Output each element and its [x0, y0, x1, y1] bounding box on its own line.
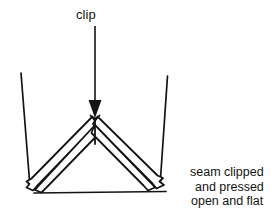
- caption-line-2: and pressed: [190, 180, 264, 195]
- clip-pointer-arrow: [89, 26, 102, 118]
- caption-line-3: open and flat: [190, 194, 264, 209]
- right-band-inner-outline: [92, 125, 156, 191]
- right-band-outer-outline: [93, 117, 164, 189]
- baseline: [34, 192, 166, 194]
- caption-block: seam clipped and pressed open and flat: [190, 165, 264, 209]
- left-seam-allowance-outer: [27, 117, 98, 191]
- right-seam-allowance-inner: [92, 125, 156, 191]
- left-fabric-edge-line: [21, 73, 30, 187]
- left-band-outer-outline: [27, 117, 98, 191]
- clip-label: clip: [76, 7, 96, 22]
- caption-line-1: seam clipped: [190, 165, 264, 180]
- left-band-inner-outline: [35, 125, 99, 193]
- diagram-canvas: clip seam clipped and pressed open and f…: [0, 0, 279, 221]
- right-fabric-edge-line: [160, 76, 168, 186]
- left-seam-allowance-inner: [35, 125, 99, 193]
- right-seam-allowance-outer: [93, 117, 164, 189]
